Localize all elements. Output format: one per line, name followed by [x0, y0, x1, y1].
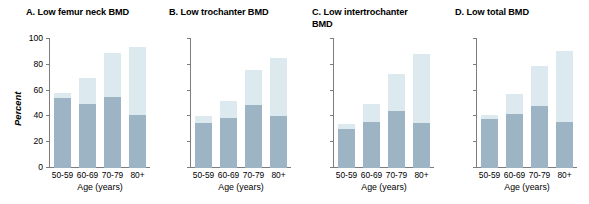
- y-axis-tick: [187, 115, 191, 116]
- bar-segment-dark: [54, 98, 71, 168]
- panel-c-title: C. Low intertrochanter BMD: [312, 7, 408, 30]
- bar-column: [413, 39, 430, 168]
- bar-column: [506, 39, 523, 168]
- y-axis-tick: [330, 38, 334, 39]
- y-axis-tick-label: 100: [29, 33, 43, 43]
- panel-d-x-axis-title: Age (years): [504, 182, 549, 192]
- panel-d: D. Low total BMD 50-5960-6970-7980+ Age …: [446, 0, 589, 204]
- y-axis-tick: [473, 90, 477, 91]
- y-axis-tick: 40: [46, 115, 50, 116]
- bar-column: [556, 39, 573, 168]
- y-axis-title: Percent: [12, 92, 23, 126]
- bar-segment-dark: [531, 106, 548, 168]
- panel-c-bars: [334, 39, 434, 168]
- bar-segment-dark: [245, 105, 262, 168]
- bar-segment-dark: [363, 122, 380, 168]
- y-axis-tick: 20: [46, 141, 50, 142]
- bar-column: [104, 39, 121, 168]
- y-axis-tick: [330, 64, 334, 65]
- y-axis-tick: 60: [46, 90, 50, 91]
- x-axis-tick-label: 50-59: [336, 170, 357, 180]
- bar-column: [54, 39, 71, 168]
- y-axis-tick: [473, 38, 477, 39]
- bar-segment-dark: [270, 116, 287, 168]
- y-axis-tick: [330, 167, 334, 168]
- x-axis-tick-label: 60-69: [504, 170, 525, 180]
- bar-column: [363, 39, 380, 168]
- x-axis-tick-label: 80+: [414, 170, 428, 180]
- panel-b-plot-area: 50-5960-6970-7980+ Age (years): [190, 39, 291, 168]
- bar-column: [220, 39, 237, 168]
- y-axis-tick: [330, 90, 334, 91]
- y-axis-tick: 0: [46, 167, 50, 168]
- y-axis-tick: [187, 90, 191, 91]
- bar-segment-dark: [129, 115, 146, 168]
- panel-b: B. Low trochanter BMD 50-5960-6970-7980+…: [160, 0, 303, 204]
- bar-column: [245, 39, 262, 168]
- x-axis-tick-label: 60-69: [218, 170, 239, 180]
- y-axis-tick: [187, 64, 191, 65]
- y-axis-tick: [473, 141, 477, 142]
- x-axis-tick-label: 50-59: [52, 170, 73, 180]
- bar-segment-dark: [220, 118, 237, 168]
- bar-segment-dark: [506, 114, 523, 168]
- panel-a-title: A. Low femur neck BMD: [26, 7, 129, 19]
- bar-column: [129, 39, 146, 168]
- bar-segment-dark: [79, 104, 96, 169]
- panel-c: C. Low intertrochanter BMD 50-5960-6970-…: [303, 0, 446, 204]
- x-axis-tick-label: 60-69: [77, 170, 98, 180]
- x-axis-tick-label: 80+: [130, 170, 144, 180]
- y-axis-tick-label: 20: [33, 136, 43, 146]
- panel-a-x-tick-labels: 50-5960-6970-7980+: [50, 168, 150, 180]
- bar-column: [388, 39, 405, 168]
- x-axis-tick-label: 70-79: [243, 170, 264, 180]
- x-axis-tick-label: 80+: [271, 170, 285, 180]
- figure-bmd-prevalence-by-age: A. Low femur neck BMD Percent 50-5960-69…: [0, 0, 589, 204]
- y-axis-tick: 80: [46, 64, 50, 65]
- y-axis-tick: [187, 38, 191, 39]
- panel-b-x-axis-title: Age (years): [218, 182, 263, 192]
- y-axis-tick-label: 40: [33, 110, 43, 120]
- panel-c-x-tick-labels: 50-5960-6970-7980+: [334, 168, 434, 180]
- panel-d-x-tick-labels: 50-5960-6970-7980+: [477, 168, 577, 180]
- y-axis-tick-label: 0: [38, 162, 43, 172]
- panel-c-plot-area: 50-5960-6970-7980+ Age (years): [333, 39, 434, 168]
- panel-a-x-axis-title: Age (years): [77, 182, 122, 192]
- y-axis-tick: [187, 141, 191, 142]
- panel-a: A. Low femur neck BMD Percent 50-5960-69…: [0, 0, 160, 204]
- panel-d-plot-area: 50-5960-6970-7980+ Age (years): [476, 39, 577, 168]
- panel-a-bars: [50, 39, 150, 168]
- panel-d-title: D. Low total BMD: [455, 7, 529, 19]
- bar-column: [195, 39, 212, 168]
- bar-segment-dark: [413, 123, 430, 168]
- panel-b-bars: [191, 39, 291, 168]
- x-axis-tick-label: 50-59: [193, 170, 214, 180]
- bar-column: [481, 39, 498, 168]
- x-axis-tick-label: 70-79: [529, 170, 550, 180]
- x-axis-tick-label: 80+: [557, 170, 571, 180]
- panel-c-x-axis-title: Age (years): [361, 182, 406, 192]
- y-axis-tick-label: 60: [33, 85, 43, 95]
- bar-segment-dark: [556, 122, 573, 168]
- bar-segment-dark: [388, 111, 405, 168]
- panel-b-title: B. Low trochanter BMD: [169, 7, 268, 19]
- bar-column: [270, 39, 287, 168]
- panel-a-plot-area: 50-5960-6970-7980+ Age (years) 020406080…: [49, 39, 150, 168]
- bar-column: [531, 39, 548, 168]
- y-axis-tick: [187, 167, 191, 168]
- y-axis-tick: 100: [46, 38, 50, 39]
- x-axis-tick-label: 60-69: [361, 170, 382, 180]
- bar-column: [338, 39, 355, 168]
- y-axis-tick: [473, 64, 477, 65]
- panel-d-bars: [477, 39, 577, 168]
- x-axis-tick-label: 70-79: [102, 170, 123, 180]
- x-axis-tick-label: 70-79: [386, 170, 407, 180]
- y-axis-tick: [473, 167, 477, 168]
- x-axis-tick-label: 50-59: [479, 170, 500, 180]
- bar-segment-dark: [481, 119, 498, 168]
- y-axis-tick: [330, 115, 334, 116]
- panel-b-x-tick-labels: 50-5960-6970-7980+: [191, 168, 291, 180]
- y-axis-tick-label: 80: [33, 59, 43, 69]
- y-axis-tick: [330, 141, 334, 142]
- y-axis-tick: [473, 115, 477, 116]
